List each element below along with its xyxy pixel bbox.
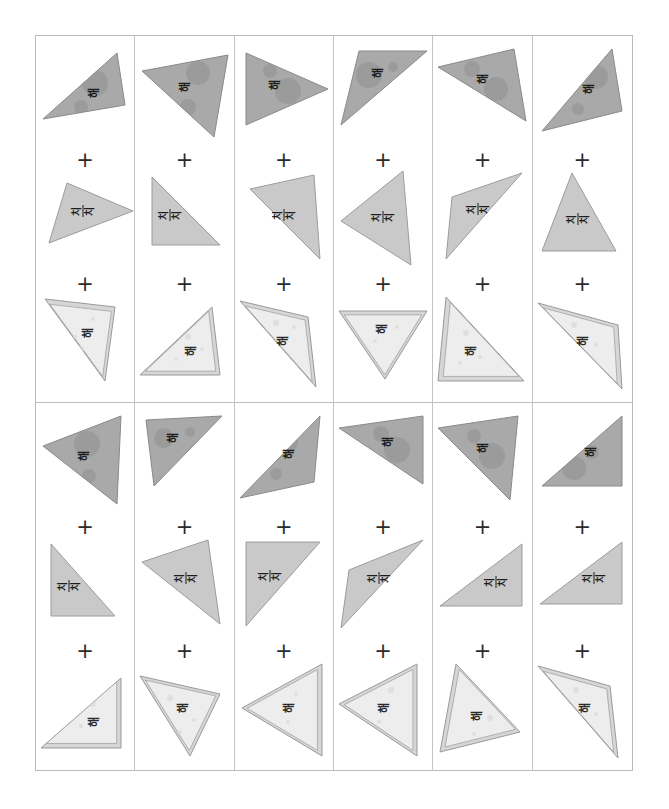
- shape-slot-middle[interactable]: 치치: [36, 531, 134, 641]
- shape-slot-top[interactable]: 해: [135, 40, 233, 150]
- shape-slot-top[interactable]: 해: [235, 407, 333, 517]
- triangle-shape-top[interactable]: 해: [37, 412, 133, 512]
- shape-slot-middle[interactable]: 치치: [36, 164, 134, 274]
- triangle-shape-mid[interactable]: 치치: [434, 169, 530, 269]
- shape-label-top: 해: [476, 443, 490, 453]
- triangle-shape-top[interactable]: 해: [136, 412, 232, 512]
- triangle-shape-bottom[interactable]: 해: [236, 660, 332, 760]
- triangle-shape-top[interactable]: 해: [434, 45, 530, 145]
- shape-label-top: 해: [381, 437, 395, 447]
- triangle-shape-mid[interactable]: 치치: [434, 536, 530, 636]
- shape-slot-bottom[interactable]: 해: [135, 288, 233, 398]
- decor-blob: [566, 720, 570, 724]
- shape-slot-top[interactable]: 해: [533, 407, 632, 517]
- shape-label-middle: 치치: [581, 572, 606, 584]
- shape-slot-middle[interactable]: 치치: [135, 531, 233, 641]
- problem-cell[interactable]: 해+치치+해: [533, 36, 632, 403]
- triangle-shape-mid[interactable]: 치치: [335, 169, 431, 269]
- triangle-shape-bottom[interactable]: 해: [136, 293, 232, 393]
- shape-slot-middle[interactable]: 치치: [433, 164, 531, 274]
- triangle-shape-bottom[interactable]: 해: [434, 660, 530, 760]
- shape-slot-middle[interactable]: 치치: [135, 164, 233, 274]
- shape-slot-bottom[interactable]: 해: [334, 655, 432, 765]
- shape-slot-bottom[interactable]: 해: [533, 655, 632, 765]
- triangle-shape-top[interactable]: 해: [534, 412, 630, 512]
- shape-slot-bottom[interactable]: 해: [235, 288, 333, 398]
- triangle-shape-bottom[interactable]: 해: [434, 293, 530, 393]
- shape-slot-top[interactable]: 해: [135, 407, 233, 517]
- triangle-shape-bottom[interactable]: 해: [136, 660, 232, 760]
- problem-cell[interactable]: 해+치치+해: [135, 403, 234, 770]
- triangle-shape-mid[interactable]: 치치: [37, 169, 133, 269]
- triangle-shape-top[interactable]: 해: [236, 45, 332, 145]
- triangle-body: [142, 55, 228, 137]
- shape-slot-bottom[interactable]: 해: [235, 655, 333, 765]
- triangle-shape-top[interactable]: 해: [335, 412, 431, 512]
- shape-slot-top[interactable]: 해: [433, 407, 531, 517]
- shape-label-middle: 치치: [56, 580, 81, 592]
- shape-slot-middle[interactable]: 치치: [433, 531, 531, 641]
- shape-slot-middle[interactable]: 치치: [533, 531, 632, 641]
- problem-cell[interactable]: 해+치치+해: [235, 36, 334, 403]
- triangle-shape-bottom[interactable]: 해: [335, 660, 431, 760]
- shape-slot-top[interactable]: 해: [235, 40, 333, 150]
- problem-cell[interactable]: 해+치치+해: [135, 36, 234, 403]
- triangle-body: [438, 49, 526, 121]
- shape-slot-top[interactable]: 해: [334, 407, 432, 517]
- shape-slot-bottom[interactable]: 해: [36, 655, 134, 765]
- shape-label-text: 치: [379, 574, 391, 583]
- triangle-shape-top[interactable]: 해: [136, 45, 232, 145]
- problem-cell[interactable]: 해+치치+해: [36, 36, 135, 403]
- shape-slot-top[interactable]: 해: [334, 40, 432, 150]
- shape-slot-middle[interactable]: 치치: [334, 531, 432, 641]
- triangle-shape-bottom[interactable]: 해: [236, 293, 332, 393]
- problem-cell[interactable]: 해+치치+해: [533, 403, 632, 770]
- triangle-shape-bottom[interactable]: 해: [37, 293, 133, 393]
- problem-cell[interactable]: 해+치치+해: [36, 403, 135, 770]
- triangle-shape-mid[interactable]: 치치: [236, 169, 332, 269]
- shape-slot-middle[interactable]: 치치: [235, 164, 333, 274]
- shape-slot-top[interactable]: 해: [433, 40, 531, 150]
- triangle-shape-top[interactable]: 해: [236, 412, 332, 512]
- triangle-shape-top[interactable]: 해: [335, 45, 431, 145]
- problem-cell[interactable]: 해+치치+해: [433, 36, 532, 403]
- problem-cell[interactable]: 해+치치+해: [334, 403, 433, 770]
- shape-slot-bottom[interactable]: 해: [433, 655, 531, 765]
- triangle-shape-bottom[interactable]: 해: [534, 660, 630, 760]
- triangle-shape-mid[interactable]: 치치: [236, 536, 332, 636]
- triangle-shape-mid[interactable]: 치치: [335, 536, 431, 636]
- triangle-shape-mid[interactable]: 치치: [37, 536, 133, 636]
- decor-blob: [180, 99, 196, 115]
- triangle-shape-bottom[interactable]: 해: [37, 660, 133, 760]
- shape-slot-middle[interactable]: 치치: [235, 531, 333, 641]
- decor-blob: [472, 732, 476, 736]
- shape-slot-bottom[interactable]: 해: [433, 288, 531, 398]
- problem-cell[interactable]: 해+치치+해: [433, 403, 532, 770]
- decor-blob: [395, 325, 399, 329]
- triangle-shape-mid[interactable]: 치치: [136, 536, 232, 636]
- shape-label-top: 해: [476, 74, 490, 84]
- triangle-shape-bottom[interactable]: 해: [534, 293, 630, 393]
- problem-cell[interactable]: 해+치치+해: [235, 403, 334, 770]
- shape-slot-top[interactable]: 해: [36, 40, 134, 150]
- shape-slot-middle[interactable]: 치치: [334, 164, 432, 274]
- triangle-shape-top[interactable]: 해: [534, 45, 630, 145]
- shape-label-text: 치: [173, 574, 185, 583]
- triangle-shape-top[interactable]: 해: [434, 412, 530, 512]
- triangle-shape-top[interactable]: 해: [37, 45, 133, 145]
- triangle-shape-mid[interactable]: 치치: [534, 536, 630, 636]
- shape-slot-bottom[interactable]: 해: [135, 655, 233, 765]
- problem-cell[interactable]: 해+치치+해: [334, 36, 433, 403]
- shape-slot-bottom[interactable]: 해: [533, 288, 632, 398]
- shape-slot-bottom[interactable]: 해: [36, 288, 134, 398]
- triangle-shape-bottom[interactable]: 해: [335, 293, 431, 393]
- shape-label-text: 치: [581, 574, 593, 583]
- triangle-body: [146, 311, 216, 371]
- shape-slot-top[interactable]: 해: [36, 407, 134, 517]
- triangle-body: [542, 173, 616, 251]
- shape-slot-top[interactable]: 해: [533, 40, 632, 150]
- triangle-shape-mid[interactable]: 치치: [534, 169, 630, 269]
- shape-slot-middle[interactable]: 치치: [533, 164, 632, 274]
- triangle-shape-mid[interactable]: 치치: [136, 169, 232, 269]
- shape-slot-bottom[interactable]: 해: [334, 288, 432, 398]
